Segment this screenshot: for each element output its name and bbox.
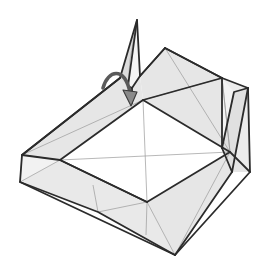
origami-diagram-figure: Three-dimensional origami model shown in… xyxy=(0,0,270,272)
origami-illustration xyxy=(0,0,270,272)
